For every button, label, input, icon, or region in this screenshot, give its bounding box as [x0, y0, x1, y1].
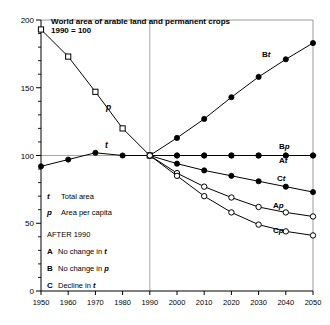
data-point-t — [93, 150, 98, 155]
x-axis-label: 2030 — [250, 298, 267, 307]
series-label-p: p — [105, 102, 111, 112]
data-point-Bt — [229, 95, 234, 100]
data-point-Ct — [310, 189, 315, 194]
x-axis-label: 1960 — [60, 298, 77, 307]
x-axis-label: 1970 — [87, 298, 104, 307]
y-axis-label: 50 — [25, 219, 34, 228]
data-point-At — [310, 153, 315, 158]
data-point-Ct — [283, 184, 288, 189]
data-point-Cp — [202, 193, 207, 198]
data-point-p — [93, 89, 98, 94]
series-end-label-Cp: Cp — [273, 226, 284, 235]
x-axis-label: 2010 — [196, 298, 213, 307]
x-axis-label: 2000 — [169, 298, 186, 307]
legend-scenario-text-B: No change in p — [58, 264, 109, 273]
x-axis-label: 2050 — [305, 298, 322, 307]
data-point-Ct — [229, 173, 234, 178]
data-point-Ap — [256, 204, 261, 209]
series-end-label-Ap: Ap — [273, 201, 284, 210]
chart-subtitle: 1990 = 100 — [51, 26, 92, 35]
series-end-label-Bt: Bt — [262, 50, 271, 59]
x-axis-label: 2040 — [277, 298, 294, 307]
data-point-Ap — [229, 195, 234, 200]
legend-text-p: Area per capita — [61, 208, 113, 217]
data-point-Ct — [256, 179, 261, 184]
y-axis-label: 200 — [21, 16, 35, 25]
data-point-At — [256, 153, 261, 158]
x-axis-label: 2020 — [223, 298, 240, 307]
data-point-At — [202, 153, 207, 158]
data-point-Cp — [310, 233, 315, 238]
data-point-t — [66, 157, 71, 162]
data-point-Bt — [174, 135, 179, 140]
data-point-Cp — [229, 210, 234, 215]
series-label-t: t — [105, 140, 109, 150]
data-point-Ap — [202, 184, 207, 189]
y-axis-label: 0 — [30, 287, 35, 296]
x-axis-label: 1950 — [33, 298, 50, 307]
legend-symbol-p: p — [46, 208, 52, 217]
data-point-At — [174, 153, 179, 158]
series-end-label-Bp: Bp — [279, 142, 290, 151]
data-point-t — [120, 153, 125, 158]
data-point-Cp — [174, 173, 179, 178]
legend-scenario-text-A: No change in t — [58, 247, 107, 256]
chart-container: 0501001502001950196019701980199020002010… — [0, 0, 330, 325]
data-point-t — [38, 164, 43, 169]
world-arable-land-chart: 0501001502001950196019701980199020002010… — [0, 0, 330, 325]
y-axis-label: 100 — [21, 152, 35, 161]
legend-scenario-symbol-A: A — [47, 247, 53, 256]
legend-text-t: Total area — [61, 192, 95, 201]
legend-heading: AFTER 1990 — [47, 230, 90, 239]
data-point-p — [66, 54, 71, 59]
series-end-label-At: At — [279, 156, 288, 165]
data-point-Cp — [283, 229, 288, 234]
legend-symbol-t: t — [47, 192, 50, 201]
x-axis-label: 1990 — [141, 298, 158, 307]
data-point-Ct — [202, 168, 207, 173]
series-end-label-Ct: Ct — [277, 174, 286, 183]
data-point-Cp — [256, 222, 261, 227]
data-point-Cp — [147, 153, 152, 158]
data-point-Bt — [310, 40, 315, 45]
legend-scenario-text-C: Decline in t — [58, 281, 96, 290]
data-point-Ap — [310, 214, 315, 219]
x-axis-label: 1980 — [114, 298, 131, 307]
chart-title: World area of arable land and permanent … — [51, 17, 231, 26]
data-point-Bt — [283, 57, 288, 62]
data-point-p — [120, 126, 125, 131]
y-axis-label: 150 — [21, 84, 35, 93]
legend-scenario-symbol-C: C — [47, 281, 53, 290]
data-point-p — [38, 27, 43, 32]
data-point-Ct — [174, 161, 179, 166]
data-point-Ap — [283, 210, 288, 215]
data-point-Bt — [202, 116, 207, 121]
data-point-At — [229, 153, 234, 158]
data-point-Bt — [256, 74, 261, 79]
legend-scenario-symbol-B: B — [47, 264, 53, 273]
